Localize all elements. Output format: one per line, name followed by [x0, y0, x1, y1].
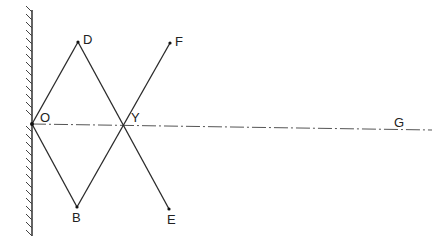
label-y: Y [131, 110, 140, 125]
label-o: O [40, 110, 50, 125]
label-b: B [72, 210, 81, 225]
point-o [30, 122, 34, 126]
label-g: G [394, 115, 404, 130]
point-f [168, 41, 171, 44]
mirror-wall [26, 6, 32, 236]
label-f: F [175, 34, 183, 49]
mirror-hatching [26, 6, 32, 236]
ray-b-f [77, 43, 170, 207]
point-e [167, 207, 170, 210]
label-d: D [83, 32, 92, 47]
ray-o-d [32, 42, 78, 124]
ray-o-b [32, 124, 77, 207]
reflection-diagram: O D Y F B E G [0, 0, 444, 250]
axis-line-og [32, 124, 432, 130]
point-d [76, 40, 79, 43]
point-b [75, 205, 78, 208]
label-e: E [167, 212, 176, 227]
